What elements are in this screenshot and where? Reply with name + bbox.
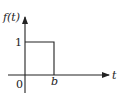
pulse-diagram: f(t) 1 0 b t — [0, 0, 123, 97]
y-axis-label: f(t) — [2, 11, 20, 24]
x-tick-label: b — [51, 75, 58, 88]
origin-label: 0 — [16, 78, 23, 91]
pulse-signal — [25, 42, 54, 75]
x-axis-label: t — [112, 69, 117, 82]
y-tick-label: 1 — [15, 36, 22, 49]
